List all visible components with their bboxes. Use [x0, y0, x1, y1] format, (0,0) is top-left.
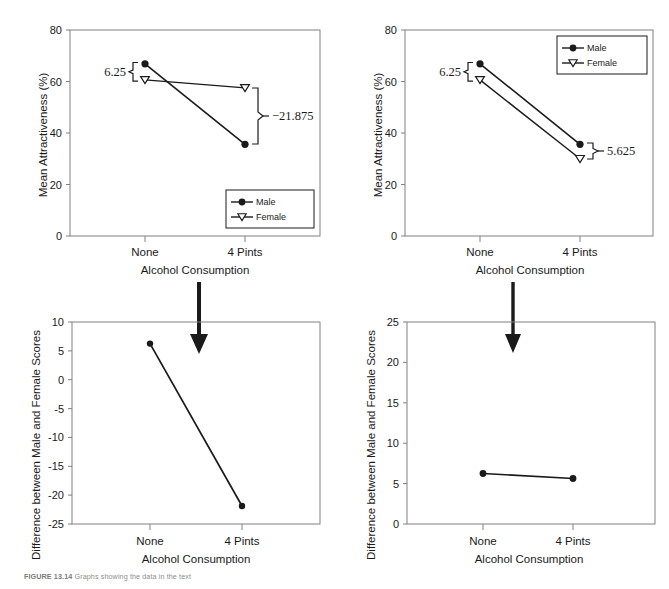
x-tick-none: None: [131, 246, 159, 258]
annotation-bracket-6-25: [464, 63, 473, 82]
y-tick-20: 20: [387, 356, 399, 368]
y-axis-ticks: 25 20 15 10 5 0: [387, 316, 407, 530]
y-axis-label: Mean Attractiveness (%): [37, 73, 49, 198]
legend-label-female: Female: [256, 212, 286, 222]
y-tick-60: 60: [385, 76, 397, 88]
y-axis-ticks: 80 60 40 20 0: [385, 24, 405, 242]
x-axis-ticks: [480, 236, 580, 242]
data-point-diff-4pints: [570, 475, 577, 482]
y-tick-40: 40: [385, 127, 397, 139]
data-point-male-4pints: [241, 141, 248, 148]
data-point-diff-4pints: [239, 503, 245, 509]
y-tick-0: 0: [58, 374, 64, 386]
x-tick-4pints: 4 Pints: [555, 535, 590, 547]
annotation-label-neg21-875: −21.875: [272, 109, 313, 123]
data-point-male-none: [476, 60, 483, 67]
series-difference: [480, 470, 577, 482]
data-point-female-4pints: [576, 156, 585, 163]
y-tick-5: 5: [393, 478, 399, 490]
figure-container: Mean Attractiveness (%) 80 60 40 20 0 No…: [0, 0, 669, 589]
y-tick-neg15: -15: [48, 460, 64, 472]
x-axis-ticks: [150, 524, 242, 530]
series-female: [476, 77, 585, 163]
legend-box: [226, 190, 314, 228]
y-axis-ticks: 80 60 40 20 0: [50, 24, 70, 242]
plot-frame: [72, 322, 320, 524]
legend-label-male: Male: [587, 43, 607, 53]
x-axis-ticks: [145, 236, 245, 242]
y-tick-0: 0: [56, 230, 62, 242]
y-tick-25: 25: [387, 316, 399, 328]
y-tick-15: 15: [387, 397, 399, 409]
y-tick-0: 0: [393, 518, 399, 530]
series-female: [141, 77, 250, 92]
y-tick-80: 80: [50, 24, 62, 36]
y-tick-neg5: -5: [54, 403, 64, 415]
legend[interactable]: Male Female: [226, 190, 314, 228]
y-tick-0: 0: [391, 230, 397, 242]
data-point-male-none: [141, 60, 148, 67]
legend-marker-male-icon: [239, 199, 246, 206]
data-point-diff-none: [147, 340, 153, 346]
x-axis-label: Alcohol Consumption: [142, 553, 251, 565]
y-tick-5: 5: [58, 345, 64, 357]
x-tick-none: None: [466, 246, 494, 258]
figure-caption-number: FIGURE 13.14: [24, 572, 72, 581]
chart-panel-bottom-left: Difference between Male and Female Score…: [0, 280, 335, 580]
x-tick-4pints: 4 Pints: [562, 246, 597, 258]
y-tick-80: 80: [385, 24, 397, 36]
chart-panel-bottom-right: Difference between Male and Female Score…: [335, 280, 669, 580]
data-point-diff-none: [480, 470, 487, 477]
y-tick-40: 40: [50, 127, 62, 139]
annotation-label-6-25: 6.25: [104, 65, 126, 79]
annotation-bracket-5-625: [587, 143, 604, 159]
annotation-bracket-6-25: [129, 63, 138, 82]
chart-panel-top-left: Mean Attractiveness (%) 80 60 40 20 0 No…: [0, 0, 335, 280]
figure-caption: FIGURE 13.14 Graphs showing the data in …: [24, 572, 644, 584]
legend-marker-male-icon: [570, 45, 577, 52]
series-difference: [147, 340, 245, 509]
y-tick-neg10: -10: [48, 431, 64, 443]
y-tick-10: 10: [52, 316, 64, 328]
plot-frame: [407, 322, 655, 524]
down-arrow-icon: [505, 282, 521, 353]
legend[interactable]: Male Female: [557, 36, 647, 74]
x-tick-none: None: [136, 535, 164, 547]
y-tick-20: 20: [50, 179, 62, 191]
y-axis-label: Difference between Male and Female Score…: [30, 330, 42, 560]
x-tick-4pints: 4 Pints: [227, 246, 262, 258]
x-axis-label: Alcohol Consumption: [141, 264, 250, 276]
figure-caption-text: Graphs showing the data in the text: [74, 572, 191, 581]
y-tick-60: 60: [50, 76, 62, 88]
down-arrow-icon: [190, 282, 208, 354]
y-tick-20: 20: [385, 179, 397, 191]
x-axis-ticks: [483, 524, 573, 530]
legend-label-female: Female: [587, 58, 617, 68]
y-tick-10: 10: [387, 437, 399, 449]
y-tick-neg20: -20: [48, 489, 64, 501]
legend-box: [557, 36, 647, 74]
legend-label-male: Male: [256, 197, 276, 207]
x-tick-4pints: 4 Pints: [224, 535, 259, 547]
x-tick-none: None: [469, 535, 497, 547]
y-axis-label: Mean Attractiveness (%): [372, 73, 384, 198]
y-tick-neg25: -25: [48, 518, 64, 530]
x-axis-label: Alcohol Consumption: [475, 553, 584, 565]
annotation-label-6-25: 6.25: [439, 65, 461, 79]
data-point-male-4pints: [576, 141, 583, 148]
y-axis-ticks: 10 5 0 -5 -10 -15 -20 -25: [48, 316, 72, 530]
series-male: [141, 60, 248, 148]
annotation-label-5-625: 5.625: [607, 144, 635, 158]
y-axis-label: Difference between Male and Female Score…: [365, 330, 377, 560]
chart-panel-top-right: Mean Attractiveness (%) 80 60 40 20 0 No…: [335, 0, 669, 280]
annotation-bracket-neg21-875: [252, 88, 269, 144]
x-axis-label: Alcohol Consumption: [476, 264, 585, 276]
